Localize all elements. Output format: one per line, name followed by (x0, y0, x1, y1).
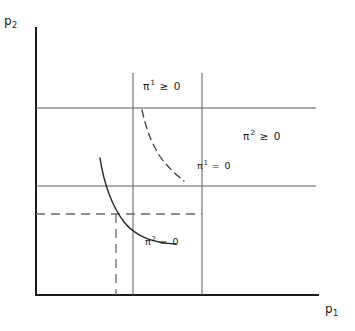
pi2-nonnegative-region-label: π2 ≥ 0 (243, 128, 282, 142)
pi1-region-superscript: 1 (150, 78, 155, 87)
pi2-reaction-curve (100, 158, 176, 244)
pi2-curve-relation: = 0 (160, 236, 180, 247)
x-axis-label-subscript: 1 (333, 308, 338, 318)
x-axis-label-base: p (325, 302, 333, 316)
pi2-curve-symbol: π (145, 236, 152, 247)
pi1-curve-superscript: 1 (204, 159, 208, 167)
diagram-canvas (0, 0, 355, 331)
pi2-region-superscript: 2 (250, 128, 255, 137)
pi1-curve-relation: = 0 (212, 160, 232, 171)
x-axis-label: p1 (325, 302, 338, 318)
pi2-curve-label: π2 = 0 (145, 235, 179, 247)
y-axis-label: p2 (4, 14, 17, 30)
pi1-nonnegative-region-label: π1 ≥ 0 (143, 78, 182, 92)
y-axis-label-base: p (4, 14, 12, 28)
pi1-reaction-curve (142, 110, 184, 181)
y-axis-label-subscript: 2 (12, 20, 17, 30)
pi2-region-relation: ≥ 0 (259, 130, 281, 142)
pi1-region-relation: ≥ 0 (159, 80, 181, 92)
pi1-curve-label: π1 = 0 (197, 159, 231, 171)
profit-region-diagram: p2 p1 π1 ≥ 0 π2 ≥ 0 π1 = 0 π2 = 0 (0, 0, 355, 331)
pi2-curve-superscript: 2 (152, 235, 156, 243)
pi1-curve-symbol: π (197, 160, 204, 171)
